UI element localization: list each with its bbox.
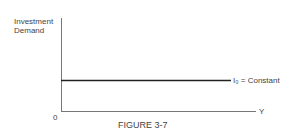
origin-label: 0 [53,113,57,122]
y-axis-label-line2: Demand [14,26,53,35]
series-label: I₀ = Constant [233,76,280,85]
x-axis-label: Y [259,107,264,116]
y-axis-label: Investment Demand [14,17,53,35]
y-axis-label-line1: Investment [14,17,53,26]
figure-caption: FIGURE 3-7 [118,121,168,130]
